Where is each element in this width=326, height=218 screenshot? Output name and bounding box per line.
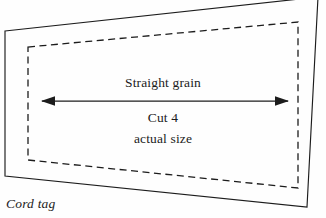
grain-line-label: Straight grain xyxy=(0,76,326,90)
dashed-seam-line xyxy=(28,22,298,188)
pattern-diagram xyxy=(0,0,326,218)
grain-arrow-head-left xyxy=(41,96,55,105)
figure-caption: Cord tag xyxy=(6,197,55,211)
cut-quantity-label: Cut 4 xyxy=(0,111,326,125)
scale-note-label: actual size xyxy=(0,132,326,146)
figure-canvas: Straight grain Cut 4 actual size Cord ta… xyxy=(0,0,326,218)
grain-arrow-head-right xyxy=(275,96,289,105)
grain-arrow xyxy=(41,96,289,105)
